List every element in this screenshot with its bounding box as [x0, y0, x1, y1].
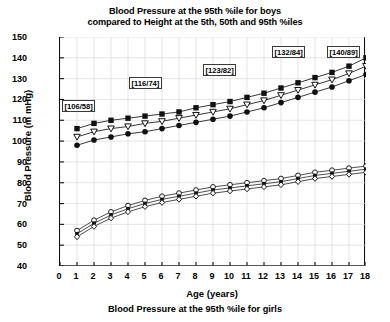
data-point-marker: [244, 186, 249, 192]
data-point-marker: [176, 123, 182, 129]
data-point-marker: [210, 190, 215, 196]
value-annotation: [106/58]: [62, 100, 95, 112]
value-annotation: [140/89]: [327, 46, 360, 58]
value-annotation: [132/84]: [272, 46, 305, 58]
y-tick-label: 90: [0, 157, 27, 167]
bottom-caption: Blood Pressure at the 95th %ile for girl…: [0, 304, 390, 314]
data-point-marker: [193, 193, 198, 199]
y-tick-label: 150: [0, 32, 27, 42]
data-point-marker: [74, 134, 81, 140]
data-point-marker: [346, 172, 351, 178]
data-point-marker: [210, 116, 216, 122]
value-annotation: [116/74]: [129, 77, 162, 89]
data-point-marker: [363, 72, 366, 78]
data-point-marker: [74, 234, 79, 240]
data-point-marker: [210, 102, 215, 107]
y-tick-label: 50: [0, 240, 27, 250]
chart-title-line2: compared to Height at the 5th, 50th and …: [0, 17, 390, 28]
x-tick-label: 18: [355, 271, 375, 281]
data-series: [74, 170, 366, 240]
data-point-marker: [227, 99, 232, 104]
data-point-marker: [312, 89, 318, 95]
data-point-marker: [329, 84, 335, 90]
y-tick-label: 40: [0, 261, 27, 271]
data-point-marker: [295, 95, 301, 101]
y-tick-label: 130: [0, 74, 27, 84]
data-point-marker: [278, 100, 284, 106]
y-tick-label: 110: [0, 115, 27, 125]
data-point-marker: [125, 209, 130, 215]
data-point-marker: [142, 204, 147, 210]
data-point-marker: [142, 113, 147, 118]
data-point-marker: [261, 105, 267, 111]
data-point-marker: [329, 174, 334, 180]
data-point-marker: [176, 197, 181, 203]
data-point-marker: [227, 113, 233, 119]
data-point-marker: [346, 78, 352, 84]
data-point-marker: [346, 63, 351, 68]
y-tick-label: 60: [0, 219, 27, 229]
y-tick-label: 70: [0, 199, 27, 209]
data-point-marker: [295, 80, 300, 85]
data-point-marker: [346, 71, 353, 77]
series-line: [77, 172, 366, 237]
data-point-marker: [244, 95, 249, 100]
data-point-marker: [142, 129, 148, 135]
data-point-marker: [329, 70, 334, 75]
data-point-marker: [91, 137, 97, 143]
data-point-marker: [125, 131, 131, 137]
series-line: [77, 166, 366, 231]
data-point-marker: [261, 184, 266, 190]
value-annotation: [123/82]: [203, 64, 236, 76]
data-point-marker: [159, 111, 164, 116]
y-tick-label: 80: [0, 178, 27, 188]
data-point-marker: [227, 188, 232, 194]
data-point-marker: [176, 109, 181, 114]
data-point-marker: [108, 118, 113, 123]
data-point-marker: [193, 120, 199, 126]
data-point-marker: [74, 142, 80, 148]
data-point-marker: [278, 85, 283, 90]
data-point-marker: [91, 121, 96, 126]
data-point-marker: [312, 75, 317, 80]
data-point-marker: [363, 55, 366, 60]
data-point-marker: [74, 126, 79, 131]
data-point-marker: [108, 134, 114, 140]
data-point-marker: [193, 105, 198, 110]
chart-title-line1: Blood Pressure at the 95th %ile for boys: [0, 6, 390, 17]
x-axis-label: Age (years): [59, 288, 365, 299]
data-point-marker: [363, 170, 366, 176]
data-series: [75, 164, 366, 233]
data-point-marker: [125, 115, 130, 120]
y-tick-label: 140: [0, 53, 27, 63]
series-line: [77, 74, 366, 145]
y-tick-label: 100: [0, 136, 27, 146]
series-line: [77, 66, 366, 137]
y-tick-label: 120: [0, 94, 27, 104]
data-point-marker: [159, 200, 164, 206]
data-point-marker: [295, 179, 300, 185]
data-point-marker: [312, 176, 317, 182]
data-point-marker: [244, 109, 250, 115]
data-point-marker: [363, 64, 366, 70]
data-point-marker: [261, 91, 266, 96]
chart-page: Blood Pressure at the 95th %ile for boys…: [0, 0, 390, 322]
data-point-marker: [159, 126, 165, 132]
